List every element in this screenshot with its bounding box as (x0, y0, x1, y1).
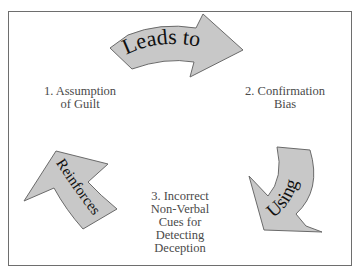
arrow-reinforces: Reinforces (24, 151, 117, 229)
arrow-leads-to: Leads to (110, 14, 243, 77)
arrow-using: Using (249, 147, 322, 232)
node-confirmation-bias: 2. Confirmation Bias (230, 85, 340, 111)
node-incorrect-nonverbal-cues: 3. Incorrect Non-Verbal Cues for Detecti… (130, 190, 230, 255)
node-assumption-of-guilt: 1. Assumption of Guilt (30, 85, 130, 111)
